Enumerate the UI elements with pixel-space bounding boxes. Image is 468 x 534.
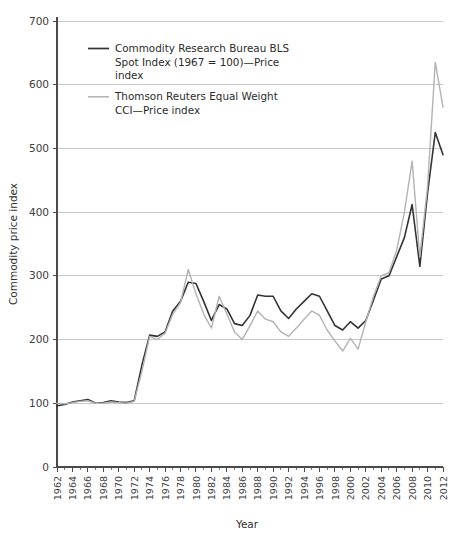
x-axis-title: Year xyxy=(235,518,259,530)
y-tick-label: 300 xyxy=(29,269,49,281)
chart-legend: Commodity Research Bureau BLSSpot Index … xyxy=(88,42,290,116)
commodity-price-index-chart: 0100200300400500600700 19621964196619681… xyxy=(0,0,468,534)
x-tick-label: 1986 xyxy=(237,476,248,500)
x-tick-label: 2006 xyxy=(391,476,402,500)
x-tick-label: 1982 xyxy=(206,476,217,500)
x-tick-label: 1998 xyxy=(330,476,341,500)
x-tick-label: 1978 xyxy=(175,476,186,500)
y-tick-label: 0 xyxy=(42,461,49,473)
legend-label-2: Thomson Reuters Equal Weight xyxy=(114,90,278,102)
x-tick-label: 1996 xyxy=(314,476,325,500)
x-tick-label: 1976 xyxy=(160,476,171,500)
x-tick-label: 1974 xyxy=(144,476,155,500)
x-tick-label: 1962 xyxy=(52,476,63,500)
chart-canvas: 0100200300400500600700 19621964196619681… xyxy=(0,0,468,534)
x-tick-label: 1992 xyxy=(283,476,294,500)
x-tick-label: 1990 xyxy=(268,476,279,500)
x-tick-label: 2000 xyxy=(345,476,356,500)
x-tick-label: 1970 xyxy=(113,476,124,500)
y-tick-label: 700 xyxy=(29,15,49,27)
x-tick-label: 2012 xyxy=(438,476,449,500)
x-axis-ticks xyxy=(57,467,443,472)
legend-label-1: index xyxy=(115,69,143,81)
x-tick-label: 1966 xyxy=(82,476,93,500)
x-tick-label: 1988 xyxy=(252,476,263,500)
x-tick-label: 1972 xyxy=(129,476,140,500)
x-tick-label: 1994 xyxy=(299,476,310,500)
y-axis-title: Commodity price index xyxy=(7,183,19,305)
x-tick-label: 1968 xyxy=(98,476,109,500)
y-tick-label: 200 xyxy=(29,333,49,345)
x-tick-label: 2008 xyxy=(407,476,418,500)
x-tick-label: 1980 xyxy=(191,476,202,500)
x-tick-label: 2002 xyxy=(360,476,371,500)
x-axis-tick-labels: 1962196419661968197019721974197619781980… xyxy=(52,476,449,500)
y-tick-label: 100 xyxy=(29,397,49,409)
x-tick-label: 2004 xyxy=(376,476,387,500)
series-line-1 xyxy=(57,133,443,406)
y-tick-label: 400 xyxy=(29,206,49,218)
x-tick-label: 1984 xyxy=(221,476,232,500)
legend-label-1: Spot Index (1967 = 100)—Price xyxy=(115,56,279,68)
legend-label-1: Commodity Research Bureau BLS xyxy=(115,42,290,54)
y-tick-label: 500 xyxy=(29,142,49,154)
x-tick-label: 1964 xyxy=(67,476,78,500)
y-axis-ticks xyxy=(53,21,57,467)
x-tick-label: 2010 xyxy=(422,476,433,500)
legend-label-2: CCI—Price index xyxy=(115,104,200,116)
y-tick-label: 600 xyxy=(29,78,49,90)
y-axis-tick-labels: 0100200300400500600700 xyxy=(29,15,49,473)
